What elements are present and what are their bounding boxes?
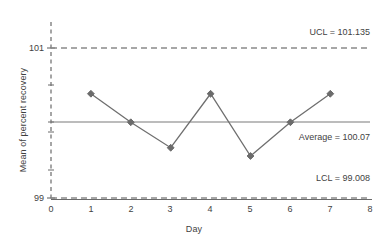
lcl-label: LCL = 99.008 (316, 173, 370, 183)
x-axis-title: Day (0, 224, 388, 234)
x-tick-label-5: 5 (247, 204, 252, 214)
x-tick-label-2: 2 (128, 204, 133, 214)
y-tick-label-99: 99 (34, 193, 44, 203)
x-tick-label-0: 0 (48, 204, 53, 214)
y-tick-label-101: 101 (29, 43, 44, 53)
x-tick-label-4: 4 (207, 204, 212, 214)
x-tick-label-6: 6 (287, 204, 292, 214)
x-tick-label-3: 3 (167, 204, 172, 214)
ucl-label: UCL = 101.135 (310, 27, 370, 37)
control-chart: 101 99 0 1 2 3 4 5 6 7 8 UCL = 101.135 A… (0, 0, 388, 244)
x-tick-label-8: 8 (367, 204, 372, 214)
y-axis-title: Mean of percent recovery (18, 40, 28, 200)
x-tick-label-1: 1 (88, 204, 93, 214)
chart-canvas: 101 99 0 1 2 3 4 5 6 7 8 UCL = 101.135 A… (0, 0, 388, 244)
x-tick-label-7: 7 (327, 204, 332, 214)
average-label: Average = 100.07 (299, 132, 370, 142)
